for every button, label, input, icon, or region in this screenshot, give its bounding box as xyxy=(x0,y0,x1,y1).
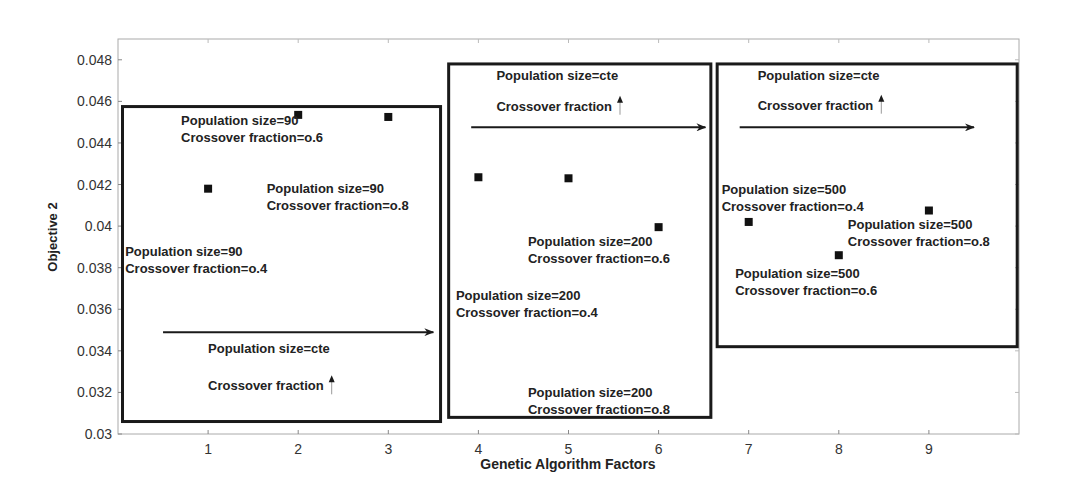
up-arrow-icon xyxy=(617,96,623,103)
y-tick-label: 0.042 xyxy=(77,177,112,193)
x-tick-label: 1 xyxy=(204,441,212,457)
point-annotation: Population size=500Crossover fraction=o.… xyxy=(722,182,865,214)
annotation-line: Population size=90 xyxy=(125,244,242,259)
x-tick-label: 4 xyxy=(475,441,483,457)
y-tick-label: 0.048 xyxy=(77,52,112,68)
data-point-marker xyxy=(745,218,753,226)
up-arrow-icon xyxy=(329,375,335,382)
data-point-marker xyxy=(925,207,933,215)
point-annotation: Population size=500Crossover fraction=o.… xyxy=(848,217,990,249)
annotation-line: Crossover fraction=o.6 xyxy=(735,283,877,298)
y-tick-label: 0.034 xyxy=(77,343,112,359)
y-tick-label: 0.038 xyxy=(77,260,112,276)
point-annotation: Population size=90Crossover fraction=o.4 xyxy=(125,244,268,276)
annotation-line: Crossover fraction=o.6 xyxy=(528,251,670,266)
data-point-marker xyxy=(204,185,212,193)
annotations: Population size=90Crossover fraction=o.6… xyxy=(125,68,990,417)
point-annotation: Population size=200Crossover fraction=o.… xyxy=(528,385,670,417)
trend-label-population: Population size=cte xyxy=(208,341,330,356)
y-tick-label: 0.03 xyxy=(85,426,112,442)
annotation-line: Crossover fraction=o.8 xyxy=(848,234,990,249)
annotation-line: Population size=200 xyxy=(528,385,653,400)
point-annotation: Population size=200Crossover fraction=o.… xyxy=(456,288,599,320)
annotation-line: Population size=500 xyxy=(735,266,860,281)
trend-label-crossover: Crossover fraction xyxy=(496,99,612,114)
data-point-marker xyxy=(384,113,392,121)
annotation-line: Population size=500 xyxy=(722,182,847,197)
x-tick-label: 9 xyxy=(925,441,933,457)
trend-label-crossover: Crossover fraction xyxy=(208,378,324,393)
point-annotation: Population size=90Crossover fraction=o.8 xyxy=(267,181,409,213)
y-tick-label: 0.036 xyxy=(77,301,112,317)
annotation-line: Crossover fraction=o.8 xyxy=(528,402,670,417)
y-tick-label: 0.044 xyxy=(77,135,112,151)
y-tick-label: 0.032 xyxy=(77,384,112,400)
annotation-line: Population size=500 xyxy=(848,217,973,232)
data-point-marker xyxy=(474,173,482,181)
annotation-line: Population size=200 xyxy=(456,288,581,303)
trend-label-population: Population size=cte xyxy=(496,68,618,83)
x-axis-label: Genetic Algorithm Factors xyxy=(480,456,656,472)
y-tick-label: 0.046 xyxy=(77,93,112,109)
annotation-line: Crossover fraction=o.4 xyxy=(722,199,865,214)
annotation-line: Population size=200 xyxy=(528,234,653,249)
trend-label-crossover: Crossover fraction xyxy=(758,98,874,113)
annotation-line: Crossover fraction=o.4 xyxy=(456,305,599,320)
scatter-chart: 0.030.0320.0340.0360.0380.040.0420.0440.… xyxy=(0,0,1071,488)
data-point-marker xyxy=(835,251,843,259)
annotation-line: Population size=90 xyxy=(267,181,384,196)
x-tick-label: 8 xyxy=(835,441,843,457)
x-tick-label: 3 xyxy=(384,441,392,457)
annotation-line: Crossover fraction=o.8 xyxy=(267,198,409,213)
y-axis-label: Objective 2 xyxy=(45,202,60,271)
annotation-line: Crossover fraction=o.6 xyxy=(181,130,323,145)
y-tick-label: 0.04 xyxy=(85,218,112,234)
x-tick-label: 5 xyxy=(565,441,573,457)
up-arrow-icon xyxy=(878,95,884,102)
annotation-line: Population size=90 xyxy=(181,113,298,128)
data-point-marker xyxy=(655,223,663,231)
x-tick-label: 7 xyxy=(745,441,753,457)
x-tick-label: 2 xyxy=(294,441,302,457)
x-tick-label: 6 xyxy=(655,441,663,457)
data-point-marker xyxy=(565,174,573,182)
annotation-line: Crossover fraction=o.4 xyxy=(125,261,268,276)
trend-label-population: Population size=cte xyxy=(758,68,880,83)
point-annotation: Population size=200Crossover fraction=o.… xyxy=(528,234,670,266)
point-annotation: Population size=500Crossover fraction=o.… xyxy=(735,266,877,298)
